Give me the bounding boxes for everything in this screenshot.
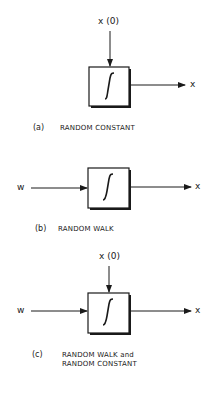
input-label-b: w	[17, 182, 24, 192]
output-label-c: x	[195, 305, 200, 315]
caption-text-c-line1: RANDOM WALK and	[62, 351, 134, 360]
diagram-b-graphics	[31, 168, 191, 210]
diagram-a-graphics	[89, 31, 185, 108]
caption-id-c: (c)	[32, 350, 43, 359]
diagram-lines	[0, 0, 212, 394]
caption-text-a: RANDOM CONSTANT	[60, 124, 135, 133]
input-label-c: w	[17, 305, 24, 315]
caption-id-a: (a)	[33, 123, 44, 132]
integrator-block-b	[88, 168, 129, 208]
caption-text-b: RANDOM WALK	[58, 225, 114, 234]
output-label-a: x	[190, 79, 195, 89]
initial-condition-label-c: x (0)	[99, 251, 120, 261]
diagram-c-graphics	[31, 266, 191, 335]
output-label-b: x	[195, 181, 200, 191]
integrator-block-c	[88, 293, 129, 333]
caption-text-c-line2: RANDOM CONSTANT	[62, 360, 137, 369]
initial-condition-label-a: x (0)	[98, 16, 119, 26]
caption-id-b: (b)	[35, 224, 46, 233]
